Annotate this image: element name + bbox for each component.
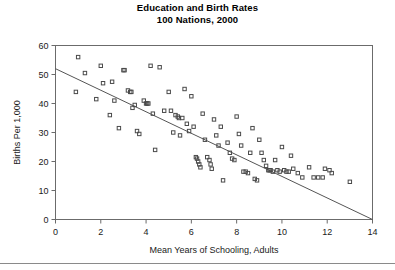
data-point xyxy=(215,134,218,137)
data-point xyxy=(201,112,204,115)
data-point xyxy=(292,167,295,170)
data-point xyxy=(117,126,120,129)
data-point xyxy=(262,158,265,161)
data-point xyxy=(185,122,188,125)
data-point xyxy=(210,167,213,170)
data-point xyxy=(146,102,149,105)
y-tick-label: 40 xyxy=(38,99,48,109)
data-point xyxy=(219,125,222,128)
data-point xyxy=(167,90,170,93)
data-point xyxy=(183,87,186,90)
data-point xyxy=(162,109,165,112)
y-tick-label: 60 xyxy=(38,41,48,51)
data-point xyxy=(153,148,156,151)
data-point xyxy=(123,68,126,71)
x-tick-label: 2 xyxy=(98,227,103,237)
y-tick-label: 30 xyxy=(38,128,48,138)
data-point xyxy=(212,118,215,121)
x-tick-label: 12 xyxy=(322,227,332,237)
x-tick-label: 8 xyxy=(234,227,239,237)
data-point xyxy=(249,151,252,154)
data-point xyxy=(296,171,299,174)
data-point xyxy=(321,176,324,179)
data-point xyxy=(76,55,79,58)
data-point xyxy=(307,166,310,169)
data-point xyxy=(95,97,98,100)
data-point xyxy=(158,66,161,69)
data-point xyxy=(147,102,150,105)
x-tick-label: 10 xyxy=(277,227,287,237)
data-point xyxy=(83,71,86,74)
data-point xyxy=(301,176,304,179)
data-point xyxy=(113,99,116,102)
data-point xyxy=(312,176,315,179)
data-point xyxy=(172,131,175,134)
data-point xyxy=(316,176,319,179)
data-point xyxy=(122,68,125,71)
data-points-group xyxy=(74,55,351,183)
data-point xyxy=(280,145,283,148)
x-tick-label: 6 xyxy=(189,227,194,237)
data-point xyxy=(239,144,242,147)
data-point xyxy=(130,90,133,93)
x-tick-label: 0 xyxy=(53,227,58,237)
data-point xyxy=(108,113,111,116)
x-tick-label: 4 xyxy=(144,227,149,237)
trend-line xyxy=(56,69,373,220)
data-point xyxy=(192,125,195,128)
data-point xyxy=(99,64,102,67)
data-point xyxy=(181,116,184,119)
footer-divider xyxy=(0,263,395,264)
plot-frame xyxy=(56,46,373,220)
data-point xyxy=(251,126,254,129)
y-tick-label: 50 xyxy=(38,70,48,80)
data-point xyxy=(101,82,104,85)
data-point xyxy=(178,134,181,137)
data-point xyxy=(323,167,326,170)
data-point xyxy=(258,138,261,141)
y-axis-title: Births Per 1,000 xyxy=(12,100,22,165)
data-point xyxy=(348,180,351,183)
data-point xyxy=(260,151,263,154)
data-point xyxy=(289,154,292,157)
x-tick-label: 14 xyxy=(367,227,377,237)
data-point xyxy=(169,109,172,112)
data-point xyxy=(74,90,77,93)
scatter-plot: 010203040506002468101214Mean Years of Sc… xyxy=(0,0,395,270)
data-point xyxy=(237,132,240,135)
data-point xyxy=(235,115,238,118)
data-point xyxy=(149,64,152,67)
data-point xyxy=(209,163,212,166)
chart-figure: Education and Birth Rates 100 Nations, 2… xyxy=(0,0,395,270)
y-tick-label: 10 xyxy=(38,186,48,196)
data-point xyxy=(264,164,267,167)
x-axis-title: Mean Years of Schooling, Adults xyxy=(149,245,279,255)
data-point xyxy=(242,170,245,173)
data-point xyxy=(226,141,229,144)
data-point xyxy=(287,170,290,173)
data-point xyxy=(190,95,193,98)
data-point xyxy=(273,158,276,161)
data-point xyxy=(221,179,224,182)
y-tick-label: 20 xyxy=(38,157,48,167)
y-tick-label: 0 xyxy=(43,215,48,225)
data-point xyxy=(110,80,113,83)
